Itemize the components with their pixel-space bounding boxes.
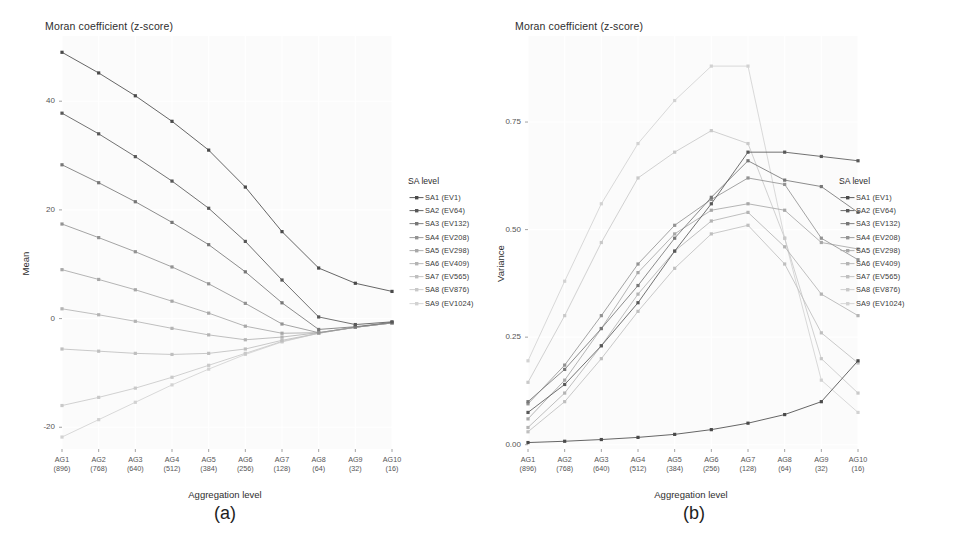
legend-item-label: SA6 (EV409) <box>425 259 469 268</box>
legend-item-label: SA3 (EV132) <box>425 219 469 228</box>
legend-item[interactable]: SA1 (EV1) <box>408 191 473 204</box>
legend-item[interactable]: SA8 (EV876) <box>408 283 473 296</box>
legend-item[interactable]: SA3 (EV132) <box>408 217 473 230</box>
legend-marker-icon <box>408 297 425 310</box>
legend-marker-icon <box>408 231 425 244</box>
legend-item[interactable]: SA4 (EV208) <box>408 231 473 244</box>
legend-marker-icon <box>839 283 856 296</box>
legend-items: SA1 (EV1)SA2 (EV64)SA3 (EV132)SA4 (EV208… <box>408 191 473 310</box>
legend-item-label: SA9 (EV1024) <box>856 299 904 308</box>
legend-marker-icon <box>408 244 425 257</box>
legend-item-label: SA4 (EV208) <box>856 233 900 242</box>
panel-b: Moran coefficient (z-score) Variance Agg… <box>486 0 953 539</box>
legend-right-items: SA1 (EV1)SA2 (EV64)SA3 (EV132)SA4 (EV208… <box>839 191 904 310</box>
legend-item-label: SA4 (EV208) <box>425 233 469 242</box>
legend-marker-icon <box>408 257 425 270</box>
y-tick-label: 0 <box>14 314 55 323</box>
y-tick-label: 0.50 <box>480 225 521 234</box>
legend-title: SA level <box>408 176 473 186</box>
legend-item-label: SA2 (EV64) <box>856 206 896 215</box>
y-tick-label: 20 <box>14 205 55 214</box>
legend-item-label: SA3 (EV132) <box>856 219 900 228</box>
legend-item-label: SA2 (EV64) <box>425 206 465 215</box>
legend-item[interactable]: SA9 (EV1024) <box>408 297 473 310</box>
figure-container: Moran coefficient (z-score) Mean Aggrega… <box>0 0 953 539</box>
legend-right-item[interactable]: SA2 (EV64) <box>839 204 904 217</box>
legend-right-item[interactable]: SA8 (EV876) <box>839 283 904 296</box>
legend-right-item[interactable]: SA5 (EV298) <box>839 244 904 257</box>
x-tick-label-secondary: (16) <box>836 464 880 473</box>
legend-right-item[interactable]: SA4 (EV208) <box>839 231 904 244</box>
legend-item-label: SA7 (EV565) <box>425 272 469 281</box>
legend-right-item[interactable]: SA7 (EV565) <box>839 270 904 283</box>
legend: SA level SA1 (EV1)SA2 (EV64)SA3 (EV132)S… <box>408 176 473 310</box>
legend-right-title: SA level <box>839 176 904 186</box>
legend-marker-icon <box>839 204 856 217</box>
y-tick-label: 0.75 <box>480 117 521 126</box>
x-tick-label: AG10(16) <box>836 455 880 473</box>
legend-item[interactable]: SA7 (EV565) <box>408 270 473 283</box>
x-tick-label-primary: AG10 <box>370 455 414 464</box>
x-tick-label: AG10(16) <box>370 455 414 473</box>
legend-item-label: SA1 (EV1) <box>425 193 461 202</box>
panel-a-x-axis-title: Aggregation level <box>60 489 390 500</box>
x-tick-label-primary: AG10 <box>836 455 880 464</box>
legend-item[interactable]: SA6 (EV409) <box>408 257 473 270</box>
legend-right-item[interactable]: SA1 (EV1) <box>839 191 904 204</box>
legend-right-item[interactable]: SA9 (EV1024) <box>839 297 904 310</box>
panel-a-letter: (a) <box>165 503 285 524</box>
legend-item-label: SA5 (EV298) <box>425 246 469 255</box>
y-tick-label: 40 <box>14 96 55 105</box>
legend-marker-icon <box>408 270 425 283</box>
y-tick-label: 0.00 <box>480 440 521 449</box>
legend-marker-icon <box>839 244 856 257</box>
legend-right-item[interactable]: SA6 (EV409) <box>839 257 904 270</box>
legend-item[interactable]: SA2 (EV64) <box>408 204 473 217</box>
legend-marker-icon <box>839 297 856 310</box>
legend-item[interactable]: SA5 (EV298) <box>408 244 473 257</box>
legend-item-label: SA5 (EV298) <box>856 246 900 255</box>
panel-b-x-axis-title: Aggregation level <box>526 489 856 500</box>
panel-a: Moran coefficient (z-score) Mean Aggrega… <box>0 0 486 539</box>
legend-marker-icon <box>839 217 856 230</box>
panel-b-letter: (b) <box>634 503 754 524</box>
legend-marker-icon <box>408 283 425 296</box>
legend-item-label: SA8 (EV876) <box>856 285 900 294</box>
y-tick-label: -20 <box>14 422 55 431</box>
y-tick-label: 0.25 <box>480 332 521 341</box>
legend-marker-icon <box>839 231 856 244</box>
legend-marker-icon <box>408 204 425 217</box>
legend-marker-icon <box>408 191 425 204</box>
legend-marker-icon <box>839 191 856 204</box>
legend-item-label: SA6 (EV409) <box>856 259 900 268</box>
legend-marker-icon <box>839 270 856 283</box>
legend-right-item[interactable]: SA3 (EV132) <box>839 217 904 230</box>
legend-item-label: SA1 (EV1) <box>856 193 892 202</box>
x-tick-label-secondary: (16) <box>370 464 414 473</box>
legend-marker-icon <box>839 257 856 270</box>
legend-item-label: SA7 (EV565) <box>856 272 900 281</box>
legend-marker-icon <box>408 217 425 230</box>
legend-right: SA level SA1 (EV1)SA2 (EV64)SA3 (EV132)S… <box>839 176 904 310</box>
legend-item-label: SA9 (EV1024) <box>425 299 473 308</box>
legend-item-label: SA8 (EV876) <box>425 285 469 294</box>
